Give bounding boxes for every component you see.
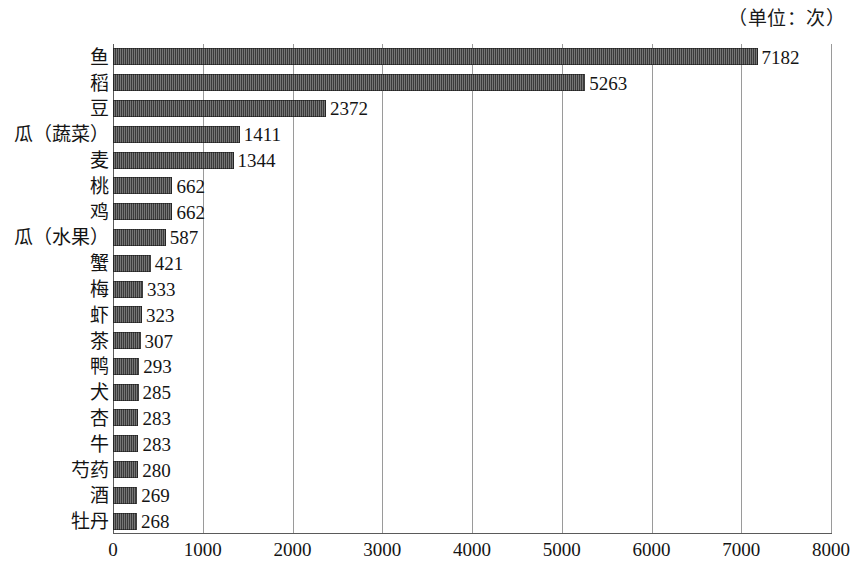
category-label-麦: 麦 [90,151,109,170]
bar-value-label: 1411 [244,125,281,144]
category-label-蟹: 蟹 [90,254,109,273]
category-label-芍药: 芍药 [71,460,109,479]
x-tick-label-2000: 2000 [274,539,312,561]
x-tick-label-7000: 7000 [722,539,760,561]
bar-row: 283 [113,435,831,452]
category-label-杏: 杏 [90,408,109,427]
bar-麦 [113,152,234,169]
gridline-8000 [831,44,832,534]
category-label-鸭: 鸭 [90,357,109,376]
x-tick-label-6000: 6000 [633,539,671,561]
category-label-茶: 茶 [90,331,109,350]
bar-row: 285 [113,384,831,401]
bar-row: 662 [113,203,831,220]
category-label-牛: 牛 [90,434,109,453]
bar-value-label: 7182 [762,47,800,66]
bar-row: 269 [113,487,831,504]
bar-犬 [113,384,139,401]
bar-row: 307 [113,332,831,349]
category-label-桃: 桃 [90,176,109,195]
category-label-瓜（蔬菜）: 瓜（蔬菜） [14,125,109,144]
bar-row: 2372 [113,100,831,117]
bar-桃 [113,177,172,194]
bar-value-label: 662 [176,176,205,195]
bar-row: 333 [113,281,831,298]
bar-芍药 [113,461,138,478]
category-label-鸡: 鸡 [90,202,109,221]
plot-area: 7182526323721411134466266258742133332330… [113,44,831,534]
category-label-鱼: 鱼 [90,47,109,66]
bar-value-label: 333 [147,280,176,299]
bar-value-label: 293 [143,357,172,376]
bar-豆 [113,100,326,117]
x-tick-label-3000: 3000 [363,539,401,561]
bar-row: 1411 [113,126,831,143]
category-label-梅: 梅 [90,280,109,299]
category-label-虾: 虾 [90,305,109,324]
bar-茶 [113,332,141,349]
bar-row: 662 [113,177,831,194]
bar-row: 283 [113,409,831,426]
bar-row: 268 [113,513,831,530]
x-axis-line [113,533,832,534]
bar-鱼 [113,48,758,65]
bar-value-label: 285 [143,383,172,402]
bar-value-label: 283 [142,408,171,427]
bar-row: 421 [113,255,831,272]
bar-row: 280 [113,461,831,478]
bar-牡丹 [113,513,137,530]
bar-value-label: 268 [141,512,170,531]
category-label-酒: 酒 [90,486,109,505]
bar-value-label: 5263 [589,73,627,92]
bar-row: 587 [113,229,831,246]
bar-梅 [113,281,143,298]
bar-value-label: 662 [176,202,205,221]
x-tick-label-4000: 4000 [453,539,491,561]
x-tick-label-1000: 1000 [184,539,222,561]
bar-酒 [113,487,137,504]
bar-瓜（蔬菜） [113,126,240,143]
category-label-牡丹: 牡丹 [71,512,109,531]
x-tick-label-0: 0 [108,539,118,561]
bar-value-label: 307 [145,331,174,350]
bar-虾 [113,306,142,323]
bar-value-label: 2372 [330,99,368,118]
x-tick-label-5000: 5000 [543,539,581,561]
x-tick-label-8000: 8000 [812,539,850,561]
horizontal-bar-chart: （单位：次） 鱼稻豆瓜（蔬菜）麦桃鸡瓜（水果）蟹梅虾茶鸭犬杏牛芍药酒牡丹 718… [0,0,856,563]
bar-稻 [113,74,585,91]
bar-row: 5263 [113,74,831,91]
category-axis-labels: 鱼稻豆瓜（蔬菜）麦桃鸡瓜（水果）蟹梅虾茶鸭犬杏牛芍药酒牡丹 [0,0,109,563]
bar-row: 323 [113,306,831,323]
bar-row: 293 [113,358,831,375]
bar-row: 7182 [113,48,831,65]
bar-杏 [113,409,138,426]
bar-value-label: 1344 [238,151,276,170]
bar-蟹 [113,255,151,272]
bar-value-label: 283 [142,434,171,453]
bar-瓜（水果） [113,229,166,246]
bar-鸡 [113,203,172,220]
bar-row: 1344 [113,152,831,169]
bar-鸭 [113,358,139,375]
bar-value-label: 269 [141,486,170,505]
bar-value-label: 323 [146,305,175,324]
unit-caption: （单位：次） [728,6,845,32]
bar-value-label: 280 [142,460,171,479]
category-label-豆: 豆 [90,99,109,118]
bar-value-label: 587 [170,228,199,247]
category-label-稻: 稻 [90,73,109,92]
category-label-瓜（水果）: 瓜（水果） [14,228,109,247]
bar-value-label: 421 [155,254,184,273]
bar-牛 [113,435,138,452]
category-label-犬: 犬 [90,383,109,402]
